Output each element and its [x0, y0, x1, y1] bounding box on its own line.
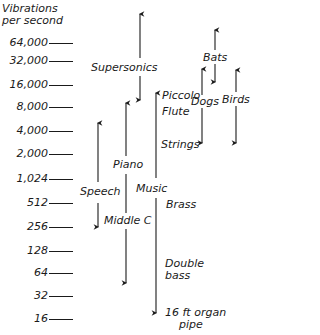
label-piccolo: Piccolo — [162, 90, 200, 102]
label-middle-c: Middle C — [104, 215, 152, 227]
label-birds: Birds — [222, 94, 250, 106]
label-bats: Bats — [203, 52, 227, 64]
label-piano: Piano — [113, 159, 143, 171]
label-organ-line2: pipe — [179, 319, 203, 331]
label-double-bass-line2: bass — [165, 270, 190, 282]
label-brass: Brass — [166, 199, 196, 211]
label-music: Music — [136, 183, 167, 195]
label-flute: Flute — [162, 106, 189, 118]
label-strings: Strings — [161, 139, 200, 151]
label-supersonics: Supersonics — [91, 62, 158, 74]
label-speech: Speech — [80, 186, 121, 198]
